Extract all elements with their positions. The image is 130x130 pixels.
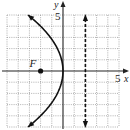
x-tick-label: 5 bbox=[115, 72, 121, 84]
directrix-arrow-icon bbox=[83, 121, 88, 128]
y-axis-label: y bbox=[53, 0, 59, 10]
focus-point bbox=[38, 68, 43, 73]
parabola-chart: x y 5 5 F bbox=[0, 0, 130, 130]
y-tick-label: 5 bbox=[55, 10, 61, 22]
x-axis-label: x bbox=[123, 73, 129, 84]
focus-label: F bbox=[29, 57, 37, 69]
directrix-arrow-icon bbox=[83, 14, 88, 21]
y-axis-arrow-icon bbox=[61, 1, 66, 7]
